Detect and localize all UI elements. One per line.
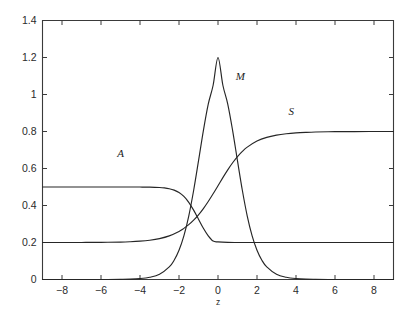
- x-tick-label-0: −8: [56, 284, 68, 296]
- x-axis-title-text: z: [216, 297, 220, 307]
- y-tick-label-6: 1.2: [22, 51, 37, 63]
- y-tick-label-4: 0.8: [22, 125, 37, 137]
- x-tick-label-2: −4: [134, 284, 146, 296]
- x-tick-label-6: 4: [293, 284, 299, 296]
- chart-figure: −8−6−4−20246800.20.40.60.811.21.4 AMS z: [0, 0, 413, 315]
- y-tick-label-2: 0.4: [22, 199, 37, 211]
- line-chart: −8−6−4−20246800.20.40.60.811.21.4 AMS z: [0, 0, 413, 315]
- y-tick-label-7: 1.4: [22, 14, 37, 26]
- x-axis-title: z: [216, 297, 220, 307]
- x-tick-label-1: −6: [95, 284, 107, 296]
- y-tick-label-5: 1: [31, 88, 37, 100]
- x-tick-label-7: 6: [332, 284, 338, 296]
- series-label-M: M: [235, 70, 246, 82]
- x-tick-label-3: −2: [173, 284, 185, 296]
- series-label-S: S: [288, 105, 294, 117]
- x-tick-label-4: 0: [215, 284, 221, 296]
- y-tick-label-3: 0.6: [22, 162, 37, 174]
- y-tick-label-0: 0: [31, 273, 37, 285]
- series-label-A: A: [116, 147, 124, 159]
- x-tick-label-8: 8: [371, 284, 377, 296]
- y-tick-label-1: 0.2: [22, 236, 37, 248]
- chart-background: [0, 0, 413, 315]
- x-tick-label-5: 2: [254, 284, 260, 296]
